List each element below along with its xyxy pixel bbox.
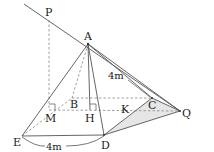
right-angle-m — [49, 104, 55, 110]
label-m: M — [45, 112, 56, 125]
point-d-dot — [103, 134, 105, 136]
label-h: H — [85, 112, 95, 125]
geometry-figure: P A B C D E M H K Q 4m 4m — [0, 0, 214, 152]
point-q-dot — [179, 110, 181, 112]
label-k: K — [121, 103, 130, 116]
dashed-ab — [72, 44, 88, 98]
line-pa-q — [24, 4, 180, 111]
label-a: A — [83, 30, 93, 43]
measure-arc-ed-2 — [66, 136, 104, 146]
right-angle-h — [90, 104, 96, 110]
label-e: E — [13, 136, 21, 149]
measure-arc-ed — [22, 137, 45, 146]
measure-label-ac: 4m — [108, 70, 124, 81]
label-q: Q — [182, 107, 191, 120]
label-c: C — [148, 99, 156, 112]
point-a-dot — [87, 43, 89, 45]
label-d: D — [101, 139, 110, 152]
measure-label-ed: 4m — [46, 141, 62, 152]
edge-aq-inner — [88, 44, 180, 111]
edge-ed — [22, 135, 104, 136]
label-b: B — [70, 98, 78, 111]
label-p: P — [45, 6, 53, 19]
